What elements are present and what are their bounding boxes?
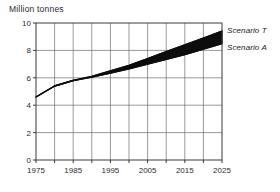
y-tick-label: 8 [27,46,32,55]
series-label-scenario-t: Scenario T [227,26,267,35]
y-tick-label: 10 [22,19,31,28]
y-tick-label: 0 [27,156,32,165]
x-axis-ticks: 197519851995200520152025 [27,160,231,175]
y-tick-label: 6 [27,74,32,83]
x-tick-label: 2015 [176,166,194,175]
x-tick-label: 1985 [64,166,82,175]
y-tick-label: 2 [27,129,32,138]
x-tick-label: 1995 [102,166,120,175]
x-tick-label: 2025 [213,166,231,175]
x-tick-label: 2005 [139,166,157,175]
y-axis-ticks: 0246810 [22,19,36,165]
chart-container: Million tonnes 0246810 19751985199520052… [0,0,280,192]
y-tick-label: 4 [27,101,32,110]
series-label-scenario-a: Scenario A [227,43,267,52]
x-tick-label: 1975 [27,166,45,175]
